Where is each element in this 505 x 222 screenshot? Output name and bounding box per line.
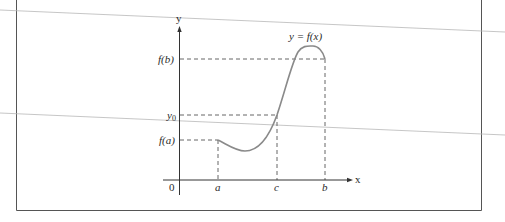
tick-label-y0: y0 (166, 109, 176, 123)
ivt-figure: y x 0 a c b f(b) y0 f(a) y = f(x) (0, 0, 505, 222)
curve-label: y = f(x) (288, 30, 322, 43)
tick-label-fa: f(a) (159, 134, 175, 147)
function-curve (218, 46, 325, 151)
x-axis-label: x (355, 173, 361, 185)
x-axis-arrow-icon (347, 178, 353, 182)
tick-label-c: c (274, 181, 279, 193)
tick-label-a: a (215, 181, 221, 193)
y-axis-label: y (176, 12, 182, 24)
figure-frame (17, 0, 482, 211)
axes (163, 26, 353, 195)
tick-label-fb: f(b) (158, 53, 174, 66)
dashed-guides (180, 59, 325, 180)
y-axis-arrow-icon (177, 26, 181, 32)
tick-label-b: b (322, 181, 328, 193)
y0-subscript: 0 (172, 114, 176, 123)
origin-label: 0 (169, 181, 175, 193)
scan-lines (0, 10, 505, 135)
